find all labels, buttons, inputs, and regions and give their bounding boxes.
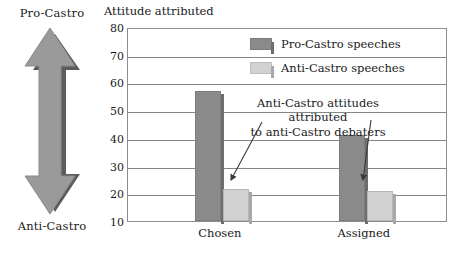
- bar-chosen-series-0: [195, 91, 221, 221]
- x-axis-tick-chosen: Chosen: [175, 226, 265, 240]
- bar-face: [367, 191, 393, 221]
- gridline-30: [128, 168, 446, 169]
- gridline-20: [128, 195, 446, 196]
- legend-swatch-1: [250, 62, 272, 74]
- bar-shadow: [393, 194, 396, 224]
- legend-swatch-shadow: [271, 42, 274, 54]
- legend-item-0: Pro-Castro speeches: [250, 34, 405, 54]
- legend-swatch-shadow: [271, 66, 274, 78]
- y-axis-tick-70: 70: [98, 51, 124, 62]
- gridline-60: [128, 84, 446, 85]
- legend-label-1: Anti-Castro speeches: [281, 61, 405, 75]
- y-axis-tick-50: 50: [98, 106, 124, 117]
- attitude-scale-arrow: Pro-Castro Anti-Castro: [0, 0, 104, 253]
- y-axis-tick-40: 40: [98, 134, 124, 145]
- y-axis-tick-20: 20: [98, 189, 124, 200]
- y-axis-tick-30: 30: [98, 162, 124, 173]
- legend-item-1: Anti-Castro speeches: [250, 58, 405, 78]
- bar-assigned-series-1: [367, 191, 393, 221]
- y-axis-tick-10: 10: [98, 217, 124, 228]
- y-axis-tick-80: 80: [98, 23, 124, 34]
- bar-chosen-series-1: [223, 189, 249, 221]
- legend-label-0: Pro-Castro speeches: [281, 37, 401, 51]
- scale-top-label: Pro-Castro: [0, 6, 104, 20]
- gridline-40: [128, 140, 446, 141]
- y-axis-tick-60: 60: [98, 78, 124, 89]
- double-headed-vertical-arrow-icon: [19, 24, 85, 220]
- bar-face: [195, 91, 221, 221]
- y-axis-tick-labels: 8070605040302010: [96, 28, 124, 222]
- annotation-line-2: to anti-Castro debaters: [228, 125, 408, 139]
- bar-face: [339, 135, 365, 221]
- chart-annotation: Anti-Castro attitudes attributed to anti…: [228, 96, 408, 139]
- scale-bottom-label: Anti-Castro: [0, 219, 104, 233]
- legend-swatch-0: [250, 38, 272, 50]
- bar-assigned-series-0: [339, 135, 365, 221]
- chart-legend: Pro-Castro speechesAnti-Castro speeches: [250, 34, 405, 82]
- bar-face: [223, 189, 249, 221]
- x-axis-tick-assigned: Assigned: [319, 226, 409, 240]
- bar-shadow: [249, 192, 252, 224]
- annotation-line-1: Anti-Castro attitudes attributed: [228, 96, 408, 125]
- chart-title: Attitude attributed: [104, 4, 214, 18]
